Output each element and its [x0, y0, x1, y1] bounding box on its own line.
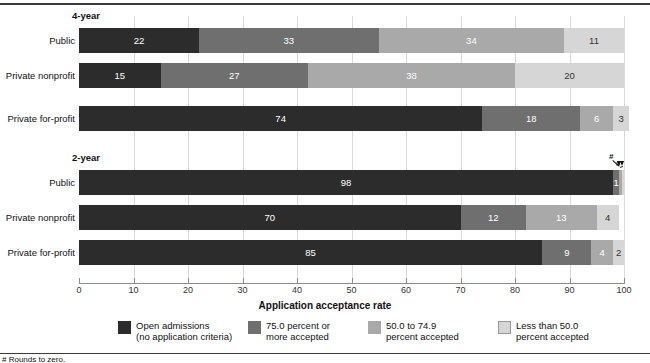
bar-segment-value: 18 [526, 114, 537, 124]
bar-segment-value: 6 [594, 114, 599, 124]
bar-segment[interactable]: 18 [482, 106, 580, 131]
legend-swatch [248, 321, 261, 334]
legend-label-line2: more accepted [266, 331, 330, 342]
bar-segment[interactable]: 11 [564, 28, 624, 53]
x-axis-tick-label: 30 [228, 285, 258, 295]
legend-label-line2: percent accepted [386, 331, 459, 342]
bar-segment[interactable]: 15 [79, 63, 161, 88]
bar-segment-value: 11 [589, 36, 599, 46]
x-axis-line [79, 283, 625, 284]
bar-segment[interactable]: 6 [580, 106, 613, 131]
legend-label-line1: Less than 50.0 [516, 320, 589, 331]
bar-segment-value: 85 [305, 248, 316, 258]
legend-label-line2: percent accepted [516, 331, 589, 342]
bar-segment-value: 38 [406, 71, 417, 81]
x-axis-tick-label: 100 [609, 285, 639, 295]
legend-item[interactable]: Open admissions(no application criteria) [118, 320, 232, 342]
bar-segment-value: 70 [264, 213, 275, 223]
bar-segment-value: 34 [466, 36, 477, 46]
bar-segment-value: 15 [115, 71, 126, 81]
bar-segment[interactable]: 85 [79, 240, 542, 265]
x-axis-tick-label: 60 [391, 285, 421, 295]
legend-label: 75.0 percent ormore accepted [266, 320, 330, 342]
row-label: Private for-profit [0, 113, 75, 124]
bar-segment-value: 27 [229, 71, 240, 81]
legend-swatch [498, 321, 511, 334]
legend-label-line2: (no application criteria) [136, 331, 232, 342]
chart-figure: 01020304050607080901004-year2-yearPublic… [0, 0, 650, 363]
legend-swatch [118, 321, 131, 334]
stacked-bar[interactable]: 15273820 [79, 63, 624, 88]
bar-segment[interactable]: 9 [542, 240, 591, 265]
row-label: Public [0, 35, 75, 46]
x-axis-tick-label: 70 [446, 285, 476, 295]
bar-segment-value: 1 [613, 178, 618, 188]
bar-segment[interactable]: 38 [308, 63, 515, 88]
bar-segment[interactable]: 20 [515, 63, 624, 88]
bar-segment[interactable]: 33 [199, 28, 379, 53]
row-label: Private nonprofit [0, 70, 75, 81]
legend-item[interactable]: Less than 50.0percent accepted [498, 320, 589, 342]
row-label: Public [0, 177, 75, 188]
bar-segment-value: 2 [616, 248, 621, 258]
legend-label-line1: Open admissions [136, 320, 232, 331]
stacked-bar[interactable]: 22333411 [79, 28, 624, 53]
legend-label-line1: 75.0 percent or [266, 320, 330, 331]
bar-segment-value: 22 [134, 36, 145, 46]
chart-legend: Open admissions(no application criteria)… [0, 320, 650, 348]
bar-segment[interactable] [622, 170, 624, 195]
group-header-4-year: 4-year [72, 10, 100, 21]
bar-segment[interactable]: 12 [461, 205, 526, 230]
x-axis-tick-label: 40 [282, 285, 312, 295]
bar-segment[interactable]: 4 [597, 205, 619, 230]
row-label: Private nonprofit [0, 212, 75, 223]
bar-segment[interactable]: 13 [526, 205, 597, 230]
bar-segment[interactable]: 3 [613, 106, 629, 131]
stacked-bar[interactable]: 981 [79, 170, 624, 195]
legend-label: 50.0 to 74.9percent accepted [386, 320, 459, 342]
stacked-bar[interactable]: 85942 [79, 240, 624, 265]
x-axis-tick-label: 90 [555, 285, 585, 295]
legend-swatch [368, 321, 381, 334]
bar-segment-value: 74 [275, 114, 286, 124]
stacked-bar[interactable]: 7012134 [79, 205, 619, 230]
stacked-bar[interactable]: 741863 [79, 106, 629, 131]
x-axis-tick-label: 50 [337, 285, 367, 295]
bar-segment-value: 13 [556, 213, 567, 223]
group-header-2-year: 2-year [72, 152, 100, 163]
bar-segment-value: 98 [341, 178, 352, 188]
bar-segment[interactable]: 34 [379, 28, 564, 53]
bar-segment[interactable]: 70 [79, 205, 461, 230]
gridline [624, 16, 625, 283]
bar-segment-value: 3 [619, 114, 624, 124]
legend-item[interactable]: 75.0 percent ormore accepted [248, 320, 330, 342]
bar-segment-value: 12 [488, 213, 499, 223]
legend-label: Open admissions(no application criteria) [136, 320, 232, 342]
row-label: Private for-profit [0, 247, 75, 258]
bar-segment[interactable]: 4 [591, 240, 613, 265]
x-axis-tick-label: 0 [64, 285, 94, 295]
legend-item[interactable]: 50.0 to 74.9percent accepted [368, 320, 459, 342]
bar-segment[interactable]: 27 [161, 63, 308, 88]
callout-arrowhead [620, 161, 624, 166]
bar-segment-value: 4 [600, 248, 605, 258]
bar-segment-value: 20 [564, 71, 575, 81]
x-axis-title: Application acceptance rate [0, 300, 650, 311]
bar-segment[interactable]: 98 [79, 170, 613, 195]
bar-segment-value: 33 [284, 36, 295, 46]
x-axis-tick-label: 10 [119, 285, 149, 295]
bar-segment-value: 9 [564, 248, 569, 258]
footnote: # Rounds to zero. [2, 355, 65, 363]
bar-segment[interactable]: 22 [79, 28, 199, 53]
bar-segment[interactable]: 74 [79, 106, 482, 131]
bar-segment[interactable]: 2 [613, 240, 624, 265]
callout-leader-line [620, 166, 623, 168]
x-axis-tick-label: 80 [500, 285, 530, 295]
bottom-divider-rule [0, 353, 650, 354]
plot-area: 01020304050607080901004-year2-yearPublic… [0, 0, 650, 300]
legend-label-line1: 50.0 to 74.9 [386, 320, 459, 331]
legend-label: Less than 50.0percent accepted [516, 320, 589, 342]
x-axis-tick-label: 20 [173, 285, 203, 295]
bar-segment-value: 4 [605, 213, 610, 223]
